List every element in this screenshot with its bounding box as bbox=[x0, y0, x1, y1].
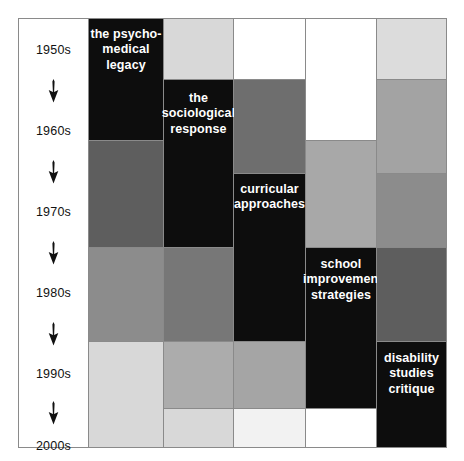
decade-label-1990s: 1990s bbox=[19, 367, 88, 381]
cell-disability-studies-critique-label: disabilitystudiescritique bbox=[374, 351, 449, 397]
label-line: disability bbox=[374, 351, 449, 366]
cell-c3-r2 bbox=[234, 80, 306, 174]
label-line: medical bbox=[86, 42, 166, 57]
down-arrow-1980s-1990s-icon bbox=[19, 322, 88, 349]
cell-c2-r4 bbox=[164, 342, 234, 409]
decade-label-1950s: 1950s bbox=[19, 43, 88, 57]
decade-label-1980s: 1980s bbox=[19, 286, 88, 300]
cell-c3-r4 bbox=[234, 342, 306, 409]
label-line: critique bbox=[374, 382, 449, 397]
cell-sociological-response-label: thesociologicalresponse bbox=[161, 91, 236, 137]
cell-c4-r4 bbox=[306, 409, 377, 448]
label-line: strategies bbox=[303, 288, 379, 303]
column-curricular-approaches: curricularapproaches bbox=[234, 19, 306, 447]
cell-c4-r1 bbox=[306, 19, 377, 141]
decades-timeline-column: 1950s1960s1970s1980s1990s2000s bbox=[19, 19, 89, 447]
decade-label-1960s: 1960s bbox=[19, 124, 88, 138]
label-line: the bbox=[161, 91, 236, 106]
cell-c1-r4 bbox=[89, 342, 164, 448]
label-line: curricular bbox=[231, 182, 308, 197]
cell-school-improvement-strategies: schoolimprovementstrategies bbox=[306, 248, 377, 409]
stratified-timeline-figure: 1950s1960s1970s1980s1990s2000s the psych… bbox=[0, 0, 464, 461]
label-line: improvement bbox=[303, 272, 379, 287]
label-line: studies bbox=[374, 366, 449, 381]
cell-psycho-medical-legacy: the psycho-medicallegacy bbox=[89, 19, 164, 141]
column-school-improvement-strategies: schoolimprovementstrategies bbox=[306, 19, 377, 447]
down-arrow-1970s-1980s-icon bbox=[19, 241, 88, 268]
cell-curricular-approaches: curricularapproaches bbox=[234, 174, 306, 342]
column-sociological-response: thesociologicalresponse bbox=[164, 19, 234, 447]
cell-c5-r3 bbox=[377, 174, 447, 248]
cell-c5-r2 bbox=[377, 80, 447, 174]
cell-disability-studies-critique: disabilitystudiescritique bbox=[377, 342, 447, 448]
cell-c5-r4 bbox=[377, 248, 447, 342]
cell-c5-r1 bbox=[377, 19, 447, 80]
label-line: response bbox=[161, 122, 236, 137]
cell-c2-r5 bbox=[164, 409, 234, 448]
cell-c4-r2 bbox=[306, 141, 377, 248]
cell-c3-r1 bbox=[234, 19, 306, 80]
cell-c1-r2 bbox=[89, 141, 164, 248]
label-line: sociological bbox=[161, 106, 236, 121]
cell-sociological-response: thesociologicalresponse bbox=[164, 80, 234, 248]
label-line: legacy bbox=[86, 58, 166, 73]
cell-c1-r3 bbox=[89, 248, 164, 342]
down-arrow-1990s-2000s-icon bbox=[19, 401, 88, 428]
column-psycho-medical-legacy: the psycho-medicallegacy bbox=[89, 19, 164, 447]
cell-c3-r5 bbox=[234, 409, 306, 448]
cell-c2-r3 bbox=[164, 248, 234, 342]
timeline-matrix: 1950s1960s1970s1980s1990s2000s the psych… bbox=[18, 18, 447, 448]
label-line: the psycho- bbox=[86, 27, 166, 42]
label-line: school bbox=[303, 257, 379, 272]
cell-psycho-medical-legacy-label: the psycho-medicallegacy bbox=[86, 27, 166, 73]
column-disability-studies-critique: disabilitystudiescritique bbox=[377, 19, 447, 447]
down-arrow-1950s-1960s-icon bbox=[19, 79, 88, 106]
decade-label-1970s: 1970s bbox=[19, 205, 88, 219]
cell-c2-r1 bbox=[164, 19, 234, 80]
decade-label-2000s: 2000s bbox=[19, 439, 88, 453]
label-line: approaches bbox=[231, 197, 308, 212]
down-arrow-1960s-1970s-icon bbox=[19, 160, 88, 187]
cell-curricular-approaches-label: curricularapproaches bbox=[231, 182, 308, 213]
cell-school-improvement-strategies-label: schoolimprovementstrategies bbox=[303, 257, 379, 303]
